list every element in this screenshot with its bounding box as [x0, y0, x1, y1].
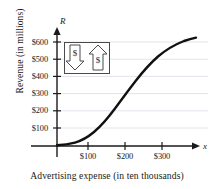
- y-axis-title: Revenue (in millions): [15, 0, 25, 111]
- y-axis-variable-label: R: [60, 16, 66, 26]
- dollar-down-arrow-icon: $: [66, 45, 84, 70]
- x-tick-label-200: $200: [108, 152, 142, 161]
- y-axis: [53, 27, 60, 157]
- revenue-vs-advertising-chart: $600 $500 $400 $300 $200 $100 $100 $200 …: [0, 0, 214, 189]
- dollar-up-arrow-icon: $: [89, 45, 107, 70]
- money-arrows-graphic: $ $: [65, 43, 109, 73]
- dollar-up-symbol: $: [96, 55, 101, 65]
- y-tick-label-100: $100: [18, 124, 48, 133]
- x-tick-label-100: $100: [71, 152, 105, 161]
- money-flow-icon-box: $ $: [64, 42, 110, 74]
- x-axis-variable-label: x: [203, 141, 207, 151]
- dollar-down-symbol: $: [73, 48, 78, 58]
- x-tick-label-300: $300: [145, 152, 179, 161]
- x-axis-title: Advertising expense (in ten thousands): [0, 170, 214, 181]
